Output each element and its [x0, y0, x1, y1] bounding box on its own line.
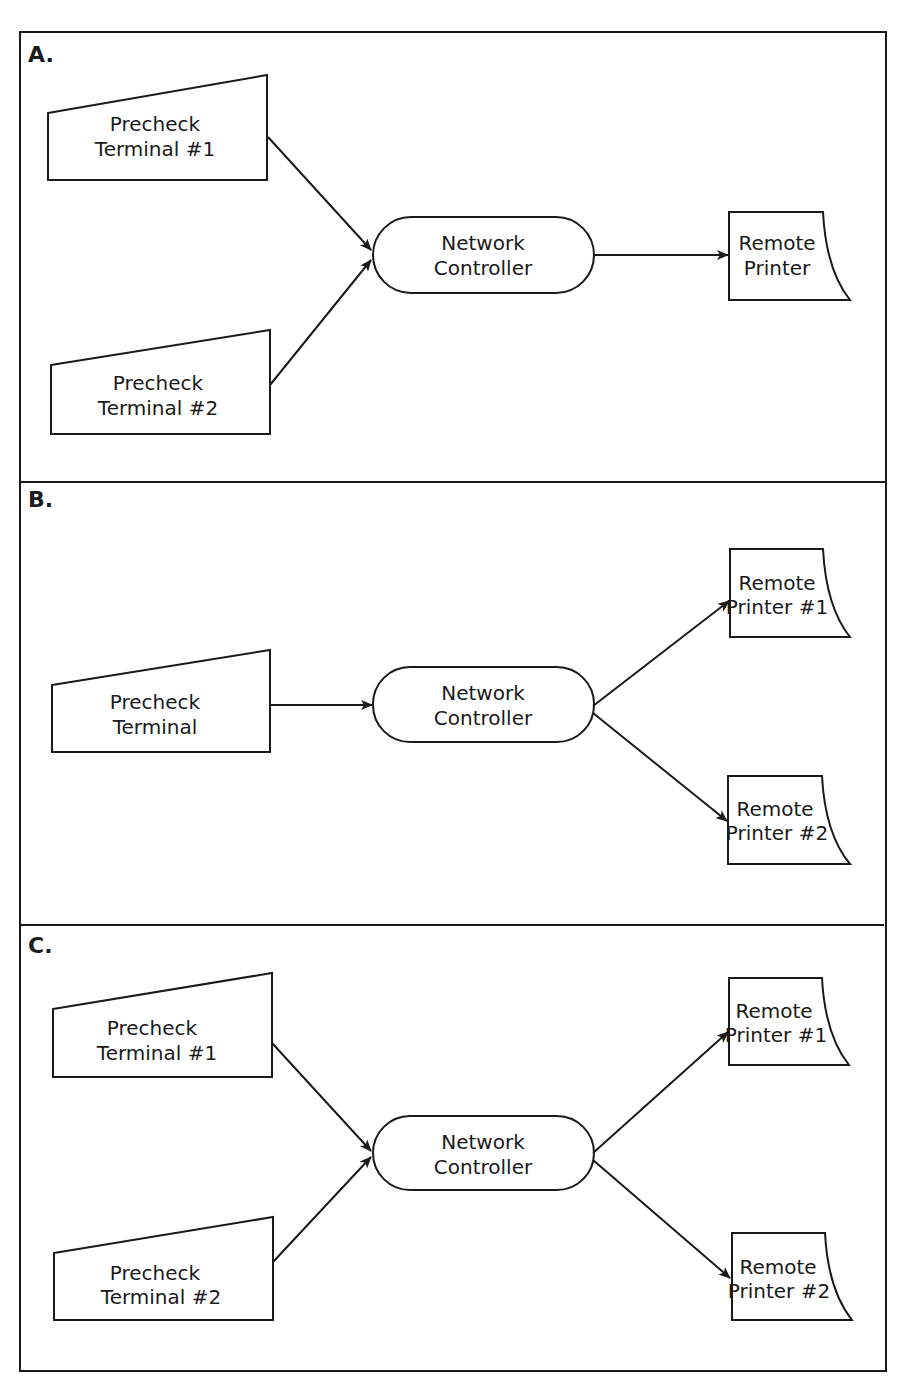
arrow-terminal1-to-controller	[272, 1043, 371, 1151]
remote-printer-1: Remote Printer #1	[726, 549, 850, 637]
arrow-terminal2-to-controller	[270, 260, 371, 385]
controller-shape	[373, 217, 594, 293]
arrow-controller-to-printer-1	[593, 1032, 728, 1153]
printer-label-line2: Printer #1	[725, 1023, 827, 1047]
remote-printer-2: Remote Printer #2	[728, 1233, 852, 1320]
terminal-label-line1: Precheck	[110, 690, 201, 714]
panel-label-b: B.	[28, 487, 53, 512]
controller-label-line2: Controller	[434, 256, 533, 280]
precheck-terminal-1: Precheck Terminal #1	[48, 75, 267, 180]
panel-c: C. Precheck Terminal #1 Precheck Termina…	[28, 933, 852, 1320]
panel-label-c: C.	[28, 933, 53, 958]
controller-label-line1: Network	[441, 231, 525, 255]
remote-printer-2: Remote Printer #2	[726, 776, 850, 864]
terminal-label-line2: Terminal #2	[100, 1285, 221, 1309]
printer-label-line1: Remote	[738, 571, 815, 595]
printer-label-line1: Remote	[739, 1255, 816, 1279]
terminal-label-line2: Terminal #2	[97, 396, 218, 420]
printer-label-line1: Remote	[738, 231, 815, 255]
arrow-terminal2-to-controller	[273, 1157, 371, 1262]
panel-b: B. Precheck Terminal Network Controller …	[28, 487, 850, 864]
printer-label-line2: Printer #2	[728, 1279, 830, 1303]
precheck-terminal-2: Precheck Terminal #2	[54, 1217, 273, 1320]
network-controller: Network Controller	[373, 667, 594, 742]
precheck-terminal-1: Precheck Terminal #1	[53, 973, 272, 1077]
arrow-terminal1-to-controller	[268, 137, 371, 250]
controller-label-line1: Network	[441, 1130, 525, 1154]
terminal-label-line1: Precheck	[110, 1261, 201, 1285]
controller-label-line2: Controller	[434, 1155, 533, 1179]
remote-printer: Remote Printer	[729, 212, 850, 300]
precheck-terminal-2: Precheck Terminal #2	[51, 330, 270, 434]
terminal-label-line2: Terminal	[112, 715, 198, 739]
controller-label-line1: Network	[441, 681, 525, 705]
remote-printer-1: Remote Printer #1	[725, 978, 849, 1065]
terminal-label-line1: Precheck	[110, 112, 201, 136]
precheck-terminal: Precheck Terminal	[52, 650, 270, 752]
arrow-controller-to-printer-1	[593, 601, 729, 706]
printer-label-line1: Remote	[736, 797, 813, 821]
panel-label-a: A.	[28, 42, 54, 67]
terminal-label-line2: Terminal #1	[94, 137, 215, 161]
printer-label-line2: Printer #1	[726, 595, 828, 619]
controller-label-line2: Controller	[434, 706, 533, 730]
network-controller: Network Controller	[373, 1116, 594, 1190]
arrow-controller-to-printer-2	[593, 713, 727, 821]
terminal-label-line1: Precheck	[107, 1016, 198, 1040]
printer-label-line2: Printer #2	[726, 821, 828, 845]
printer-label-line2: Printer	[744, 256, 811, 280]
terminal-label-line1: Precheck	[113, 371, 204, 395]
panel-a: A. Precheck Terminal #1 Precheck Termina…	[28, 42, 850, 434]
terminal-label-line2: Terminal #1	[96, 1041, 217, 1065]
network-controller: Network Controller	[373, 217, 594, 293]
printer-label-line1: Remote	[735, 999, 812, 1023]
arrow-controller-to-printer-2	[593, 1160, 730, 1278]
network-configurations-figure: A. Precheck Terminal #1 Precheck Termina…	[0, 0, 900, 1389]
